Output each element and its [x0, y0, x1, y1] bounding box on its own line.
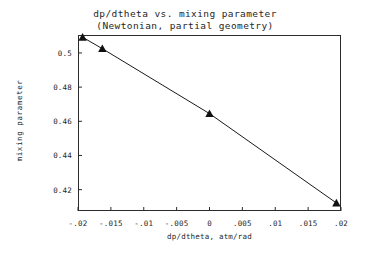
chart-figure: dp/dtheta vs. mixing parameter (Newtonia… [0, 0, 370, 260]
series-markers [78, 33, 340, 206]
x-tick-label: -.01 [127, 219, 161, 228]
x-tick-label: -.02 [61, 219, 95, 228]
y-tick-label: 0.44 [38, 151, 72, 160]
x-tick-label: .02 [324, 219, 358, 228]
x-tick-label: -.005 [160, 219, 194, 228]
x-tick-label: .015 [291, 219, 325, 228]
x-tick-label: -.015 [94, 219, 128, 228]
tick-marks [78, 53, 341, 211]
y-tick-label: 0.48 [38, 83, 72, 92]
x-tick-label: .01 [258, 219, 292, 228]
y-tick-label: 0.46 [38, 117, 72, 126]
x-axis-title: dp/dtheta, atm/rad [78, 232, 341, 241]
x-tick-label: 0 [193, 219, 227, 228]
y-axis-title: mixing parameter [15, 66, 24, 176]
x-tick-label: .005 [225, 219, 259, 228]
series-line [83, 37, 337, 203]
y-tick-label: 0.42 [38, 186, 72, 195]
y-tick-label: 0.5 [38, 49, 72, 58]
